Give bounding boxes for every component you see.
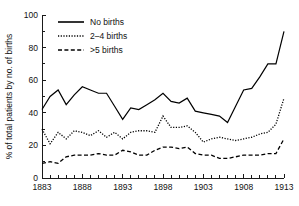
x-tick-label: 1913 xyxy=(275,182,294,192)
y-tick-label: 100 xyxy=(24,10,38,20)
x-tick-label: 1908 xyxy=(234,182,253,192)
x-tick-label: 1898 xyxy=(154,182,173,192)
chart-legend: No births2–4 births>5 births xyxy=(58,17,127,55)
y-tick-labels: 020406080100 xyxy=(24,10,38,183)
series-line-solid xyxy=(42,31,284,122)
line-chart: 020406080100 188318881893189819031908191… xyxy=(0,0,299,206)
x-tick-labels: 1883188818931898190319081913 xyxy=(33,182,294,192)
x-tick-label: 1893 xyxy=(113,182,132,192)
chart-axes xyxy=(42,15,284,178)
y-axis-label-text: % of total patients by no. of births xyxy=(4,34,14,160)
legend-label: 2–4 births xyxy=(90,31,127,41)
y-tick-label: 60 xyxy=(29,75,39,85)
y-axis-label: % of total patients by no. of births xyxy=(4,34,14,160)
x-tick-label: 1903 xyxy=(194,182,213,192)
y-tick-label: 80 xyxy=(29,43,39,53)
y-tick-label: 40 xyxy=(29,108,39,118)
series-line-dashed xyxy=(42,139,284,163)
x-tick-label: 1883 xyxy=(33,182,52,192)
series-line-dotted xyxy=(42,98,284,144)
legend-label: >5 births xyxy=(90,45,123,55)
legend-label: No births xyxy=(90,17,124,27)
x-tick-label: 1888 xyxy=(73,182,92,192)
y-tick-label: 20 xyxy=(29,140,39,150)
axis-spines xyxy=(42,15,284,178)
chart-figure: 020406080100 188318881893189819031908191… xyxy=(0,0,299,206)
chart-series-group xyxy=(42,31,284,163)
